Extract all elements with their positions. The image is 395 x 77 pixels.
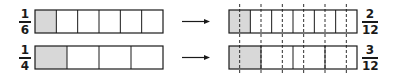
- shaded-part: [35, 46, 67, 69]
- fraction-bars-diagram: [0, 0, 395, 77]
- shaded-part: [229, 46, 261, 69]
- shaded-part: [35, 10, 56, 33]
